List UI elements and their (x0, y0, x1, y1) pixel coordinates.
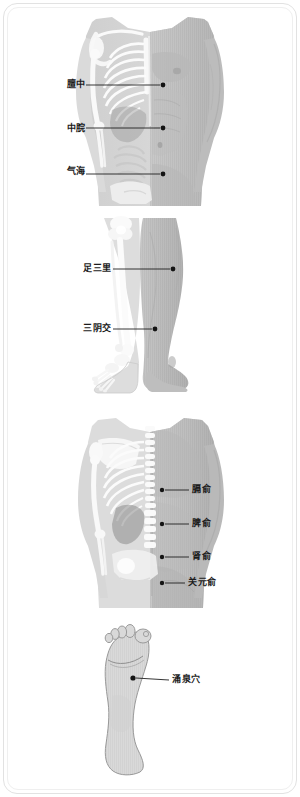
label-pishu: 脾俞 (192, 519, 211, 528)
back-torso-panel (0, 416, 300, 608)
label-yongquanxue: 涌泉穴 (172, 675, 201, 684)
chart-page: 膻中 中脘 气海 足三里 三阴交 膈俞 脾俞 肾俞 关元俞 涌泉穴 (0, 0, 300, 797)
label-zusanli: 足三里 (30, 264, 112, 273)
label-shenshu: 肾俞 (192, 552, 211, 561)
label-tanzhong: 膻中 (12, 80, 86, 89)
legs-figure (92, 216, 188, 393)
toe-5 (105, 633, 113, 642)
label-guanyuanshu: 关元俞 (188, 578, 217, 587)
toe-big (135, 629, 151, 643)
label-sanyinjiao: 三阴交 (30, 324, 112, 333)
lower-legs-panel (0, 212, 300, 404)
foot-sole-panel (0, 616, 300, 781)
front-torso-panel (0, 14, 300, 206)
label-qihai: 气海 (12, 167, 86, 176)
label-zhongwan: 中脘 (12, 124, 86, 133)
label-geshu: 膈俞 (192, 485, 211, 494)
foot-sole-figure (105, 625, 151, 775)
front-torso-figure (76, 14, 224, 206)
